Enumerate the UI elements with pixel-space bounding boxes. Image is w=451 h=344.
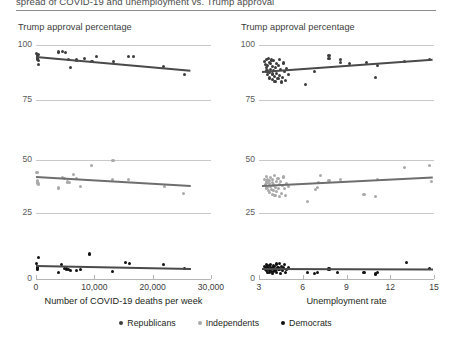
data-point [90,164,93,167]
data-point [124,261,127,264]
data-point [374,76,377,79]
data-point [79,185,82,188]
data-point [162,263,165,266]
data-point [36,267,39,270]
legend-swatch-icon [198,321,202,325]
xtick-deaths-20000: 20,000 [128,282,178,292]
xlabel-deaths: Number of COVID-19 deaths per week [36,296,211,306]
xtick-unemployment-12: 12 [365,282,415,292]
data-point [306,200,309,203]
data-point [57,50,60,53]
legend-label: Democrats [289,318,332,328]
xtick-deaths-10000: 10,000 [69,282,119,292]
legend-item-independents[interactable]: Independents [198,318,259,328]
legend-item-republicans[interactable]: Republicans [119,318,175,328]
data-point [273,174,276,177]
data-point [271,178,274,181]
data-point [319,174,322,177]
xtickmark-deaths-30000 [211,275,212,279]
data-point [336,271,339,274]
ytick-republicans-unemployment-75: 75 [225,94,255,104]
gridline-independents-deaths-50 [36,160,211,161]
figure-top-rule [16,10,436,11]
data-point [403,166,406,169]
data-point [306,271,309,274]
xtickmark-deaths-10000 [94,275,95,279]
data-point [428,164,431,167]
figure-cut-title: spread of COVID-19 and unemployment vs. … [16,0,436,7]
data-point [376,64,379,67]
data-point [284,194,287,197]
trend-line-democrats-unemployment [262,268,433,270]
legend-swatch-icon [119,321,123,325]
data-point [57,271,60,274]
data-point [405,261,408,264]
gridline-independents-unemployment-25 [259,213,434,214]
data-point [281,76,284,79]
panel-title-unemployment: Trump approval percentage [241,22,355,32]
xtick-unemployment-3: 3 [234,282,284,292]
data-point [273,80,276,83]
legend-label: Republicans [127,318,175,328]
data-point [95,55,98,58]
data-point [128,262,131,265]
ytick-independents-deaths-25: 25 [2,207,32,217]
data-point [283,263,286,266]
xtick-deaths-0: 0 [11,282,61,292]
data-point [111,159,114,162]
ytick-republicans-unemployment-100: 100 [225,39,255,49]
ytick-independents-unemployment-25: 25 [225,207,255,217]
data-point [280,80,283,83]
ytick-republicans-deaths-75: 75 [2,94,32,104]
trend-line-republicans-deaths [36,56,191,72]
data-point [327,54,330,57]
data-point [276,77,279,80]
xtick-unemployment-6: 6 [278,282,328,292]
xtick-unemployment-9: 9 [322,282,372,292]
data-point [316,271,319,274]
data-point [278,58,281,61]
data-point [287,185,290,188]
data-point [284,79,287,82]
data-point [374,195,377,198]
data-point [64,51,67,54]
gridline-republicans-deaths-100 [36,45,211,46]
data-point [278,195,281,198]
panel-title-deaths: Trump approval percentage [18,22,132,32]
data-point [362,193,365,196]
data-point [273,194,276,197]
data-point [127,55,130,58]
data-point [37,63,40,66]
data-point [279,272,282,275]
data-point [79,268,82,271]
ytick-independents-deaths-50: 50 [2,154,32,164]
data-point [282,175,285,178]
xtickmark-unemployment-3 [259,275,260,279]
data-point [69,66,72,69]
gridline-independents-deaths-25 [36,213,211,214]
data-point [37,256,40,259]
gridline-republicans-unemployment-75 [259,100,434,101]
gridline-republicans-deaths-75 [36,100,211,101]
xtickmark-unemployment-6 [303,275,304,279]
data-point [37,59,40,62]
data-point [376,271,379,274]
data-point [57,186,60,189]
chart-legend: RepublicansIndependentsDemocrats [0,318,451,328]
gridline-independents-unemployment-50 [259,160,434,161]
data-point [37,183,40,186]
legend-item-democrats[interactable]: Democrats [281,318,332,328]
data-point [282,61,285,64]
xtick-deaths-30000: 30,000 [186,282,236,292]
data-point [280,192,283,195]
legend-label: Independents [206,318,259,328]
data-point [275,190,278,193]
data-point [316,186,319,189]
data-point [277,187,280,190]
data-point [273,75,276,78]
xaxis-deaths [36,279,211,280]
data-point [287,73,290,76]
ytick-republicans-deaths-100: 100 [2,39,32,49]
data-point [430,180,433,183]
data-point [284,271,287,274]
